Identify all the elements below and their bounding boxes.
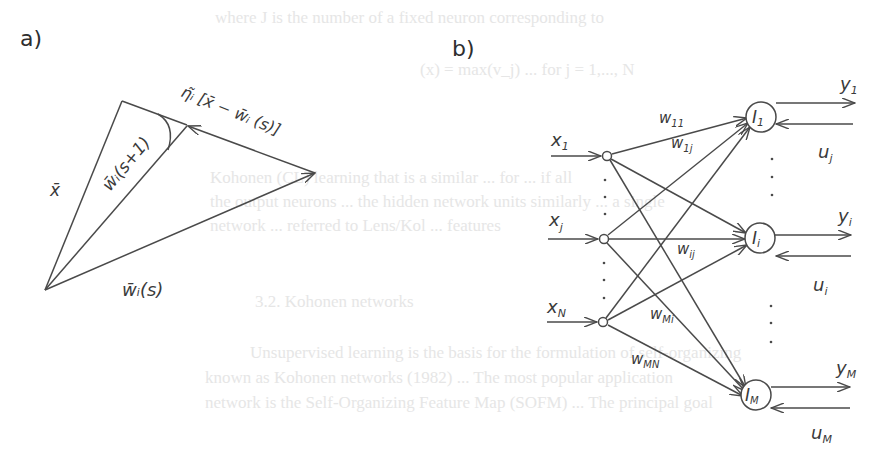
vector-w-next [45, 126, 187, 290]
label-update-formula: η̃ᵢ [x̄ − w̄ᵢ (s)] [179, 82, 284, 139]
output-label-yM: yM [835, 357, 857, 381]
input-label-xj: xj [548, 209, 564, 234]
vector-x-to-update-segment [122, 101, 187, 125]
weight-label-wij: wij [677, 240, 695, 260]
feedback-label-uM: uM [811, 422, 832, 446]
label-w-next: w̄ᵢ(s+1) [98, 133, 155, 195]
update-vector [188, 126, 315, 173]
input-label-xN: xN [546, 296, 566, 320]
label-x-vector: x̄ [49, 180, 61, 200]
panel-a-label: a) [20, 26, 42, 51]
output-label-yi: yi [837, 205, 852, 229]
weight-label-wMN: wMN [631, 350, 660, 370]
feedback-label-ui: ui [813, 274, 827, 298]
input-label-x1: x1 [550, 129, 569, 153]
output-label-y1: y1 [839, 73, 858, 97]
output-ellipsis [770, 158, 774, 344]
input-node-xN [599, 318, 608, 327]
weight-label-w11: w11 [659, 109, 684, 129]
diagram-canvas: a) x̄ w̄ᵢ(s+1) w̄ᵢ(s) η̃ᵢ [x̄ − w̄ᵢ (s)]… [0, 0, 893, 463]
input-node-x1 [603, 152, 612, 161]
input-node-xj [600, 235, 609, 244]
panel-b: b) [452, 36, 858, 446]
weight-label-wMi: wMi [650, 305, 674, 325]
feedback-label-u1: uj [818, 141, 833, 165]
angle-arc [158, 114, 170, 150]
panel-b-label: b) [452, 36, 475, 61]
label-w-current: w̄ᵢ(s) [122, 279, 163, 300]
weight-label-w1j: w1j [671, 134, 693, 154]
panel-a: a) x̄ w̄ᵢ(s+1) w̄ᵢ(s) η̃ᵢ [x̄ − w̄ᵢ (s)] [20, 26, 315, 300]
